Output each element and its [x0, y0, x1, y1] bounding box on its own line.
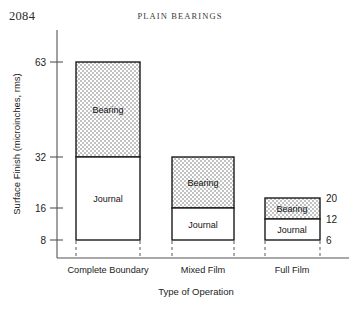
bar-segment-label-bearing: Bearing: [187, 178, 218, 188]
x-axis-title: Type of Operation: [158, 286, 234, 297]
bar-group-full-film[interactable]: Bearing Journal 20 12 6: [265, 193, 338, 258]
bar-segment-label-journal: Journal: [277, 225, 307, 235]
x-category-label-1: Mixed Film: [181, 265, 226, 275]
bar-segment-label-bearing: Bearing: [92, 105, 123, 115]
y-axis-title: Surface Finish (microinches, rms): [11, 73, 22, 214]
y-tick-label-32: 32: [35, 152, 47, 163]
y-tick-label-63: 63: [35, 57, 47, 68]
chart-canvas: 63 32 16 8 Surface Finish (microinches, …: [0, 0, 360, 311]
bar-group-mixed-film[interactable]: Bearing Journal: [172, 157, 234, 258]
right-axis-label-20: 20: [326, 193, 338, 204]
right-axis-label-12: 12: [326, 214, 338, 225]
figure-page: 2084 PLAIN BEARINGS 63: [0, 0, 360, 311]
bar-group-complete-boundary[interactable]: Bearing Journal: [76, 62, 140, 258]
x-axis-category-labels: Complete Boundary Mixed Film Full Film: [67, 265, 309, 275]
bar-segment-label-bearing: Bearing: [276, 204, 307, 214]
y-tick-label-8: 8: [40, 235, 46, 246]
bar-chart-svg: 63 32 16 8 Surface Finish (microinches, …: [0, 0, 360, 311]
bar-segment-label-journal: Journal: [188, 220, 218, 230]
right-axis-label-6: 6: [326, 235, 332, 246]
bar-segment-label-journal: Journal: [93, 194, 123, 204]
x-category-label-0: Complete Boundary: [67, 265, 149, 275]
x-category-label-2: Full Film: [275, 265, 310, 275]
y-tick-label-16: 16: [35, 203, 47, 214]
y-axis-ticks: 63 32 16 8: [35, 57, 63, 246]
